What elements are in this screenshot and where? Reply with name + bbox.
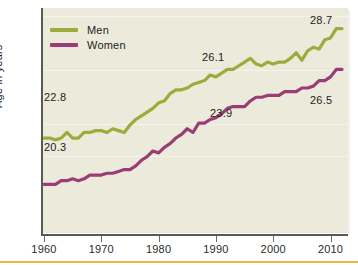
legend: Men Women xyxy=(50,22,126,52)
x-axis-tick xyxy=(273,236,274,242)
plot-area: Men Women 22.8 26.1 28.7 20.3 23.9 26.5 xyxy=(42,8,348,233)
legend-label-women: Women xyxy=(87,39,126,51)
legend-line-swatch-men xyxy=(50,28,78,32)
x-axis-tick-label: 1960 xyxy=(31,243,56,255)
x-axis-tick-label: 1990 xyxy=(203,243,228,255)
legend-line-swatch-women xyxy=(50,43,78,47)
x-axis-spine xyxy=(41,234,348,236)
y-axis-title: Age in years xyxy=(0,44,4,108)
line-women xyxy=(44,69,342,184)
legend-item-men: Men xyxy=(50,22,126,37)
x-axis-tick xyxy=(44,236,45,242)
x-axis-tick-label: 1980 xyxy=(146,243,171,255)
x-axis-tick-label: 2010 xyxy=(318,243,343,255)
x-axis-tick-label: 2000 xyxy=(261,243,286,255)
x-axis-tick xyxy=(101,236,102,242)
x-axis-tick xyxy=(159,236,160,242)
y-axis-spine xyxy=(41,8,43,236)
women-mid-label: 23.9 xyxy=(210,107,232,119)
legend-label-men: Men xyxy=(87,24,109,36)
chart-figure: Men Women 22.8 26.1 28.7 20.3 23.9 26.5 … xyxy=(0,0,358,265)
x-axis-tick xyxy=(331,236,332,242)
footer-accent-rule xyxy=(0,261,358,263)
men-mid-label: 26.1 xyxy=(202,51,224,63)
x-axis-tick-label: 1970 xyxy=(89,243,114,255)
women-start-label: 20.3 xyxy=(44,141,66,153)
men-end-label: 28.7 xyxy=(310,14,332,26)
legend-item-women: Women xyxy=(50,37,126,52)
men-start-label: 22.8 xyxy=(44,91,66,103)
women-end-label: 26.5 xyxy=(310,94,332,106)
x-axis-tick xyxy=(216,236,217,242)
